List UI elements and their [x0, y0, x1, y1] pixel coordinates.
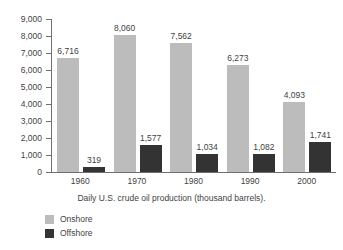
bar-group: 6,716319 [52, 19, 109, 172]
x-category-label: 1960 [52, 177, 108, 186]
legend-label-offshore: Offshore [60, 229, 92, 238]
legend-swatch-onshore [45, 215, 54, 224]
plot-area: 6,7163198,0601,5777,5621,0346,2731,0824,… [52, 19, 335, 172]
bar-group: 7,5621,034 [165, 19, 222, 172]
bar-offshore[interactable]: 1,082 [253, 154, 275, 172]
y-tick-label: 7,000 [2, 49, 42, 58]
legend-label-onshore: Onshore [60, 215, 93, 224]
bar-value-label: 319 [87, 156, 101, 165]
bar-offshore[interactable]: 1,741 [309, 142, 331, 172]
x-category-label: 1980 [166, 177, 222, 186]
y-tick-label: 9,000 [2, 15, 42, 24]
bar-value-label: 1,082 [253, 143, 274, 152]
bar-onshore[interactable]: 7,562 [170, 43, 192, 172]
bar-value-label: 8,060 [114, 24, 135, 33]
legend-item-offshore[interactable]: Offshore [45, 226, 93, 240]
bar-value-label: 1,741 [310, 131, 331, 140]
legend-swatch-offshore [45, 229, 54, 238]
y-tick-label: 3,000 [2, 117, 42, 126]
y-tick-label: 6,000 [2, 66, 42, 75]
bar-value-label: 1,577 [140, 134, 161, 143]
bar-onshore[interactable]: 4,093 [283, 102, 305, 172]
y-tick-label: 0 [2, 168, 42, 177]
x-axis-line [51, 172, 336, 173]
bar-offshore[interactable]: 1,577 [140, 145, 162, 172]
chart-legend: Onshore Offshore [45, 212, 93, 240]
legend-item-onshore[interactable]: Onshore [45, 212, 93, 226]
bar-chart-figure: 9,0008,0007,0006,0005,0004,0003,0002,000… [0, 0, 343, 250]
y-tick-mark [46, 172, 52, 173]
bar-value-label: 1,034 [197, 143, 218, 152]
bar-value-label: 6,716 [57, 47, 78, 56]
y-tick-label: 5,000 [2, 83, 42, 92]
bar-offshore[interactable]: 319 [83, 167, 105, 172]
y-tick-label: 2,000 [2, 134, 42, 143]
bar-value-label: 4,093 [284, 91, 305, 100]
bar-group: 4,0931,741 [278, 19, 335, 172]
x-category-label: 2000 [279, 177, 335, 186]
bar-value-label: 6,273 [227, 54, 248, 63]
x-category-label: 1970 [109, 177, 165, 186]
y-tick-label: 4,000 [2, 100, 42, 109]
y-tick-label: 1,000 [2, 151, 42, 160]
bar-group: 6,2731,082 [222, 19, 279, 172]
bar-onshore[interactable]: 6,716 [57, 58, 79, 172]
chart-caption: Daily U.S. crude oil production (thousan… [0, 193, 343, 203]
bar-onshore[interactable]: 6,273 [227, 65, 249, 172]
bar-value-label: 7,562 [171, 32, 192, 41]
bar-group: 8,0601,577 [109, 19, 166, 172]
bar-onshore[interactable]: 8,060 [114, 35, 136, 172]
x-category-label: 1990 [222, 177, 278, 186]
bar-offshore[interactable]: 1,034 [196, 154, 218, 172]
y-tick-label: 8,000 [2, 32, 42, 41]
